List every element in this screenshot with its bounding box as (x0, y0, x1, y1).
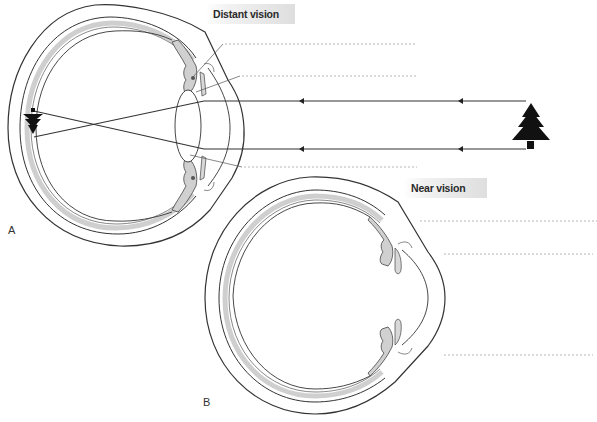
near-vision-label: Near vision (403, 178, 487, 198)
distant-vision-label: Distant vision (205, 4, 295, 24)
eye-b-sclera (205, 177, 445, 414)
eye-a-lens (175, 90, 201, 162)
eye-b-near-vision (205, 177, 597, 414)
panel-letter-b: B (203, 396, 210, 408)
arrowhead-icons (299, 98, 463, 152)
diagram-canvas (0, 0, 597, 422)
eye-a-sclera (8, 5, 244, 246)
panel-letter-a: A (8, 224, 15, 236)
tree-icon (512, 103, 550, 149)
eye-accommodation-diagram: Distant vision Near vision A B (0, 0, 597, 422)
